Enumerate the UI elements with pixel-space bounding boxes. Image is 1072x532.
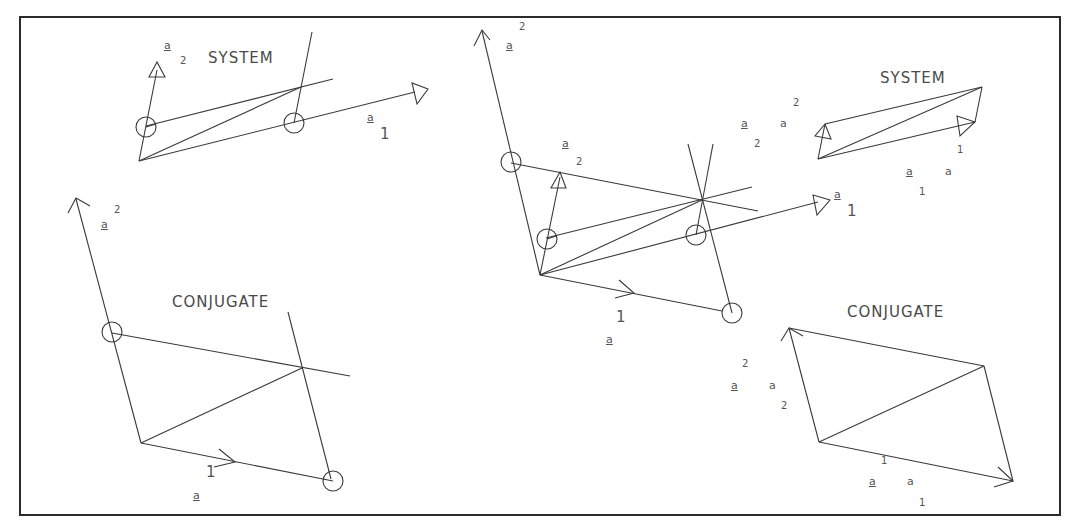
label-a1-vector: a [906,166,913,177]
label-a2-subscript: 2 [781,401,787,411]
label-a2-scalar: a [769,380,776,391]
panel-title-conjugate-left: CONJUGATE [172,295,269,310]
label-a2-subscript: 2 [576,157,582,167]
label-a1-vector: a [193,490,200,501]
label-a1-tip: 1 [957,145,963,155]
label-a2-vector: a [741,118,748,129]
label-a2-superscript: 2 [114,205,120,215]
label-a1-superscript: 1 [206,465,216,480]
label-a1-superscript: 1 [616,310,626,325]
label-a1-sub-vector: a [834,189,841,200]
panel-title-system-right: SYSTEM [880,71,946,86]
point-circle [102,322,122,342]
label-a1-scalar: a [907,476,914,487]
label-a2-sub-vector: a [562,138,569,149]
label-a1-vector: a [367,112,374,123]
label-a1-subscript: 1 [847,204,857,219]
panel-combined-center [474,30,830,323]
arrowhead-a1-sup-icon [615,280,634,298]
label-a1-subscript: 1 [380,127,390,142]
label-a1-vector: a [869,476,876,487]
label-a2-vector: a [731,380,738,391]
label-a2-superscript: 2 [519,22,525,32]
arrowhead-a1-sub-icon [813,195,830,215]
panel-title-system-left: SYSTEM [208,51,274,66]
arrowhead-a2-icon [149,62,165,77]
label-a1-subscript: 1 [919,187,925,197]
panel-title-conjugate-right: CONJUGATE [847,305,944,320]
label-a2-vector: a [164,40,171,51]
label-a1-sup-vector: a [606,334,613,345]
label-a2-subscript: 2 [754,139,760,149]
label-a2-scalar: a [780,118,787,129]
label-a2-sup-vector: a [506,40,513,51]
label-a1-subscript: 1 [919,498,925,508]
panel-conjugate-right [781,328,1013,487]
panel-conjugate-left [68,198,350,491]
arrowhead-a1-icon [412,83,428,104]
label-a1-superscript: 1 [881,456,887,466]
label-a2-superscript: 2 [793,98,799,108]
label-a2-superscript: 2 [742,359,748,369]
label-a1-scalar: a [945,166,952,177]
label-a2-vector: a [101,219,108,230]
figure-frame [20,17,1060,515]
label-a2-subscript: 2 [180,56,186,66]
